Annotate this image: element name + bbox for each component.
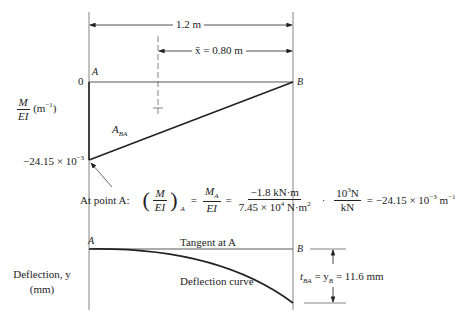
xbar-label: x̄ = 0.80 m	[192, 45, 246, 56]
point-a-pointer-arrow	[91, 163, 112, 187]
span-label: 1.2 m	[173, 19, 204, 30]
deflection-point-b: B	[297, 244, 303, 254]
moment-slope-line	[89, 82, 293, 160]
y-axis-label-den: EI	[16, 110, 30, 122]
tangent-label: Tangent at A	[180, 237, 236, 248]
moment-point-b: B	[297, 77, 303, 87]
y-axis-label-num: M	[17, 97, 30, 110]
deflection-point-a: A	[88, 236, 94, 246]
equation-row: At point A: ( M EI )A = MA EI = −1.8 kN·…	[80, 187, 456, 213]
moment-point-a: A	[92, 67, 98, 77]
zero-tick-label: 0	[78, 76, 84, 87]
area-label: ABA	[112, 124, 127, 138]
curve-label: Deflection curve	[180, 276, 254, 287]
min-value-label: −24.15 × 10−3	[23, 155, 84, 167]
moment-y-axis-label: M EI (m−1)	[16, 97, 57, 122]
equation-prefix: At point A:	[80, 195, 130, 206]
deflection-y-axis-label: Deflection, y (mm)	[12, 269, 72, 295]
tba-label: tBA = yB = 11.6 mm	[300, 270, 384, 286]
